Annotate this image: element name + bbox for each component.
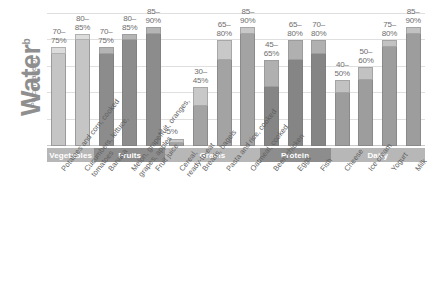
bar-value-label-line2: 80% (206, 29, 243, 38)
bar-yogurt[interactable] (382, 40, 397, 146)
bar-value-label-line2: 75% (88, 36, 125, 45)
plot-area: 70–75%80–85%70–75%80–85%85–90%2–5%30–45%… (47, 14, 425, 146)
bar-range-upper-segment (122, 34, 137, 41)
bar-cheese[interactable] (335, 80, 350, 146)
bar-value-label-line1: 85– (229, 7, 266, 16)
bar-value-label-line1: 45– (253, 40, 290, 49)
bar-range-upper-segment (193, 87, 208, 107)
bar-value-label-line2: 80% (300, 29, 337, 38)
bar-value-label-line1: 85– (395, 7, 430, 16)
x-axis-labels: Potatoes and corn, cookedCucumbers, lett… (0, 162, 430, 290)
bar-value-label-line2: 65% (253, 49, 290, 58)
water-percentage-chart: Waterb Percentage of 70–75%80–85%70–75%8… (0, 0, 430, 290)
bar-range-upper-segment (406, 27, 421, 34)
bar-range-lower-segment (406, 34, 421, 146)
bar-value-label-line2: 90% (229, 16, 266, 25)
bar-fish[interactable] (311, 40, 326, 146)
y-axis-title-group: Waterb Percentage of (0, 0, 44, 160)
bar-range-upper-segment (217, 40, 232, 60)
bar-potatoes-corn[interactable] (51, 47, 66, 146)
bar-value-label-line2: 50% (324, 69, 361, 78)
bar-value-label-line2: 60% (347, 56, 384, 65)
bar-range-lower-segment (358, 80, 373, 146)
bar-ice-cream[interactable] (358, 67, 373, 146)
bar-value-label: 30–45% (182, 67, 219, 85)
bar-range-upper-segment (99, 47, 114, 54)
bar-value-label-line2: 90% (395, 16, 430, 25)
y-axis-title-prefix: Percentage of (29, 28, 38, 138)
bar-range-upper-segment (382, 40, 397, 47)
bar-value-label-line1: 85– (135, 7, 172, 16)
bar-range-upper-segment (311, 40, 326, 53)
bar-value-label: 50–60% (347, 47, 384, 65)
bar-value-label-line2: 75% (40, 36, 77, 45)
bar-range-lower-segment (51, 54, 66, 146)
bar-eggs[interactable] (288, 40, 303, 146)
bar-value-label-line2: 90% (135, 16, 172, 25)
bar-range-upper-segment (288, 40, 303, 60)
bar-value-label-line1: 30– (182, 67, 219, 76)
bar-value-label-line2: 45% (182, 76, 219, 85)
bar-range-lower-segment (382, 47, 397, 146)
bar-value-label-line1: 50– (347, 47, 384, 56)
bar-range-upper-segment (358, 67, 373, 80)
bar-range-lower-segment (335, 93, 350, 146)
bar-range-upper-segment (146, 27, 161, 34)
bar-value-label: 45–65% (253, 40, 290, 58)
bar-value-label: 85–90% (395, 7, 430, 25)
bar-range-upper-segment (51, 47, 66, 54)
bar-value-label: 85–90% (135, 7, 172, 25)
bar-value-label-line2: 80% (371, 29, 408, 38)
bar-range-upper-segment (264, 60, 279, 86)
bar-range-upper-segment (240, 27, 255, 34)
bar-range-upper-segment (335, 80, 350, 93)
bar-milk[interactable] (406, 27, 421, 146)
bar-value-label: 85–90% (229, 7, 266, 25)
bar-value-label: 70–80% (300, 20, 337, 38)
bar-value-label-line1: 80– (64, 14, 101, 23)
bar-value-label-line1: 70– (300, 20, 337, 29)
